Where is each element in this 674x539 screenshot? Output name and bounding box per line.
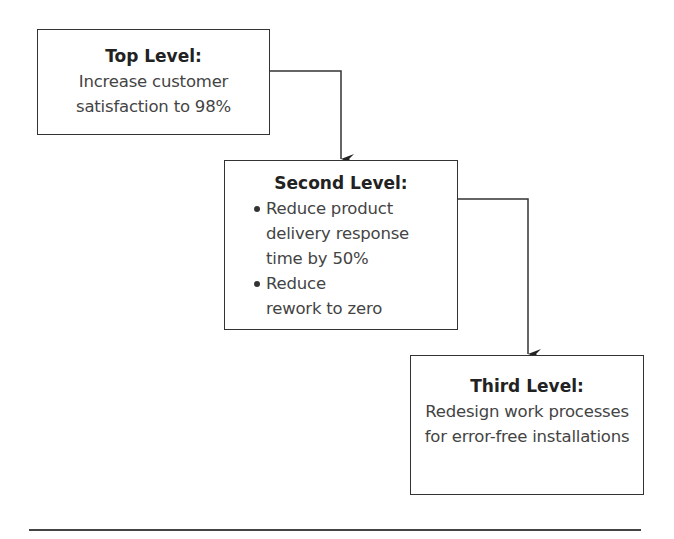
- third-level-box: Third Level: Redesign work processes for…: [410, 355, 644, 495]
- top-level-box: Top Level: Increase customer satisfactio…: [37, 29, 270, 135]
- horizontal-rule: [29, 529, 641, 531]
- second-level-bullet: Reduce rework to zero: [252, 271, 386, 321]
- second-level-box: Second Level: Reduce product delivery re…: [224, 160, 458, 330]
- third-level-title: Third Level:: [411, 374, 643, 399]
- third-level-text: Redesign work processes for error-free i…: [411, 399, 643, 449]
- second-level-bullet: Reduce product delivery response time by…: [252, 196, 422, 271]
- arrow-second-to-third: [457, 199, 528, 354]
- arrow-top-to-second: [269, 71, 341, 159]
- second-level-bullets: Reduce product delivery response time by…: [252, 196, 422, 321]
- second-level-title: Second Level:: [225, 171, 457, 196]
- top-level-title: Top Level:: [38, 44, 269, 69]
- top-level-text: Increase customer satisfaction to 98%: [38, 69, 269, 119]
